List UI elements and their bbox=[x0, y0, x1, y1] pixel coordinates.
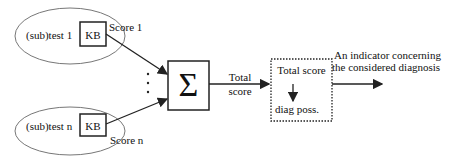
arrow-score-n bbox=[106, 99, 167, 124]
subtest-n-label: (sub)test n bbox=[26, 120, 72, 132]
arrow-score-1 bbox=[106, 34, 167, 74]
score-n-label: Score n bbox=[110, 134, 143, 146]
score-1-label: Score 1 bbox=[109, 21, 142, 33]
total-score-edge-label-2: score bbox=[220, 85, 260, 97]
output-label-1: An indicator concerning bbox=[334, 49, 441, 61]
kb-label-1: KB bbox=[80, 29, 106, 41]
subtest-1-label: (sub)test 1 bbox=[26, 29, 72, 41]
mapping-top-label: Total score bbox=[271, 64, 332, 76]
mapping-bottom-label: diag poss. bbox=[271, 103, 323, 115]
output-label-2: the considered diagnosis bbox=[332, 61, 440, 73]
ellipsis-dot bbox=[147, 73, 149, 75]
ellipsis-dot bbox=[147, 82, 149, 84]
sigma-symbol: Σ bbox=[168, 68, 209, 102]
total-score-edge-label-1: Total bbox=[220, 71, 260, 83]
ellipsis-dot bbox=[147, 91, 149, 93]
kb-label-n: KB bbox=[80, 120, 106, 132]
